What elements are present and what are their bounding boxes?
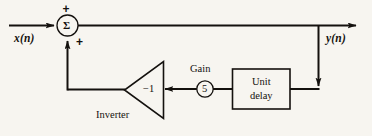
signal-flow-diagram: Σ + + x(n) y(n) −1 Inverter Gain 5 Unit …	[0, 0, 372, 136]
unit-delay-label-line2: delay	[233, 90, 291, 102]
gain-value-label: 5	[202, 84, 207, 95]
summing-junction-symbol: Σ	[63, 20, 70, 31]
output-label: y(n)	[326, 33, 346, 45]
inverter-value-label: −1	[143, 84, 154, 95]
gain-caption: Gain	[190, 64, 210, 75]
input-label: x(n)	[14, 33, 35, 45]
unit-delay-label-line1: Unit	[233, 76, 291, 88]
summer-plus-sign-bottom: +	[76, 36, 83, 48]
summer-plus-sign-top: +	[63, 3, 70, 15]
diagram-canvas	[0, 0, 372, 136]
unit-delay-block	[233, 69, 291, 109]
inverter-caption: Inverter	[96, 110, 129, 121]
